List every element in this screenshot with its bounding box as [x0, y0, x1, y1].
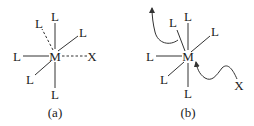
ligand-left: L	[146, 49, 154, 64]
metal-label: M	[49, 49, 61, 64]
bond-lower-left	[168, 62, 184, 76]
bond-upper-left	[177, 30, 185, 51]
ligand-lower-left: L	[160, 72, 168, 87]
caption-b: (b)	[180, 105, 195, 120]
ligand-bottom: L	[51, 87, 59, 102]
bond-upper-right	[58, 36, 78, 51]
ligand-upper-left: L	[169, 15, 177, 30]
ligand-top: L	[51, 9, 59, 24]
ligand-upper-left: L	[35, 16, 43, 31]
metal-label: M	[182, 49, 194, 64]
mechanism-diagram: M L L L L X L L (a) M L L L L L L X (b)	[0, 0, 254, 126]
bond-upper-right	[191, 36, 210, 52]
bond-upper-left-dashed	[42, 29, 53, 50]
panel-b: M L L L L L L X (b)	[146, 8, 244, 120]
entering-group-x: X	[234, 78, 244, 93]
ligand-top: L	[184, 9, 192, 24]
panel-a: M L L L L X L L (a)	[13, 9, 97, 120]
ligand-upper-right: L	[211, 24, 219, 39]
ligand-bottom: L	[184, 86, 192, 101]
ligand-upper-right: L	[79, 25, 87, 40]
entering-group-x: X	[87, 49, 97, 64]
entering-arrow-icon	[196, 62, 237, 79]
caption-a: (a)	[48, 105, 62, 120]
ligand-lower-left: L	[26, 72, 34, 87]
ligand-left: L	[13, 49, 21, 64]
